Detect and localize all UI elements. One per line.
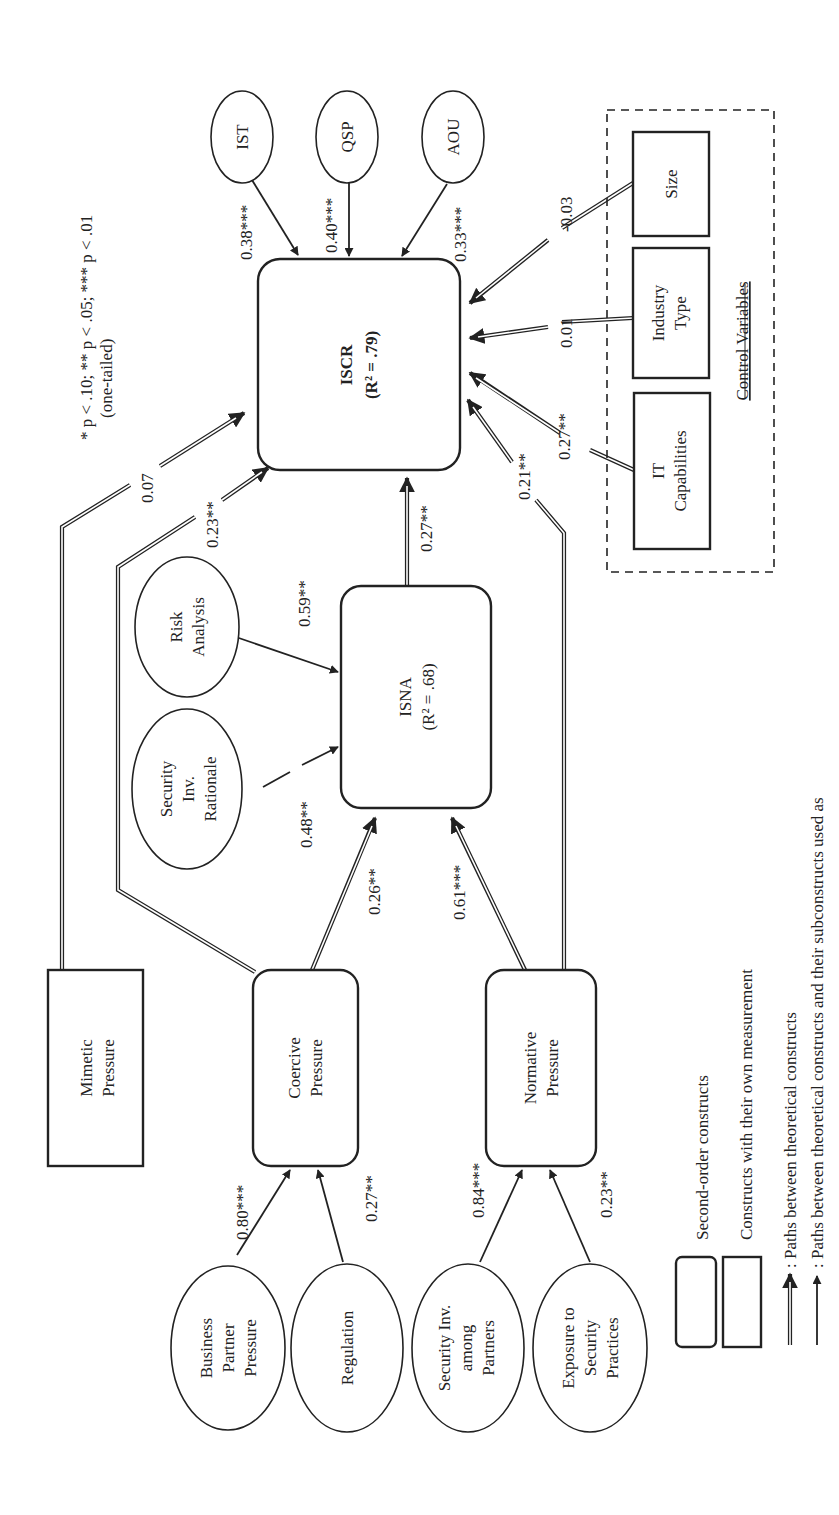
qsp-label: QSP xyxy=(338,121,357,152)
legend-single-arrow-text: : Paths between theoretical constructs a… xyxy=(808,797,827,1268)
coef-bpp-coercive: 0.80*** xyxy=(233,1185,252,1240)
path-industry-iscr: 0.01 xyxy=(470,318,633,348)
rationale-line2: Inv. xyxy=(179,776,198,802)
isna-label: ISNA xyxy=(396,676,415,716)
node-business-partner-pressure: Business Partner Pressure xyxy=(171,1266,285,1430)
path-exposure-normative: 0.23** xyxy=(550,1170,616,1262)
path-rationale-isna: 0.48** xyxy=(263,747,338,848)
mimetic-line2: Pressure xyxy=(99,1039,118,1097)
bpp-line3: Pressure xyxy=(241,1319,260,1377)
coef-isna-iscr: 0.27** xyxy=(417,505,436,552)
research-model-diagram: * p < .10; ** p < .05; *** p < .01 (one-… xyxy=(0,0,839,1515)
coef-normative-iscr: 0.21** xyxy=(515,453,534,500)
ist-label: IST xyxy=(233,124,252,150)
node-sec-inv-rationale: Security Inv. Rationale xyxy=(132,709,242,869)
significance-line-1: * p < .10; ** p < .05; *** p < .01 xyxy=(77,215,96,440)
path-bpp-coercive: 0.80*** xyxy=(233,1170,290,1255)
coef-qsp-iscr: 0.40*** xyxy=(322,198,341,253)
node-qsp: QSP xyxy=(316,91,378,183)
exposure-line3: Practices xyxy=(603,1317,622,1378)
risk-line1: Risk xyxy=(167,611,186,643)
path-coercive-isna: 0.26** xyxy=(312,818,384,970)
path-normative-isna: 0.61*** xyxy=(450,818,525,970)
node-sec-inv-partners: Security Inv. among Partners xyxy=(412,1264,524,1432)
significance-line-2: (one-tailed) xyxy=(97,339,116,418)
coercive-line2: Pressure xyxy=(307,1039,326,1097)
node-normative: Normative Pressure xyxy=(486,970,596,1166)
node-exposure-security-practices: Exposure to Security Practices xyxy=(533,1264,647,1432)
path-isna-iscr: 0.27** xyxy=(407,478,436,586)
legend-double-arrow-text: : Paths between theoretical constructs xyxy=(781,1012,800,1268)
normative-line2: Pressure xyxy=(543,1039,562,1097)
path-regulation-coercive: 0.27** xyxy=(318,1170,381,1262)
path-itcap-iscr: 0.27** xyxy=(470,373,634,470)
legend-square-box-icon xyxy=(723,1257,761,1347)
iscr-r2: (R² = .79) xyxy=(362,331,381,399)
path-risk-isna: 0.59** xyxy=(230,580,338,672)
control-variables-group: Size Industry Type IT Capabilities Contr… xyxy=(607,110,774,572)
legend: Second-order constructs Constructs with … xyxy=(676,797,827,1347)
partners-line2: among xyxy=(457,1324,476,1371)
node-mimetic: Mimetic Pressure xyxy=(48,970,143,1166)
coef-regulation-coercive: 0.27** xyxy=(362,1175,381,1222)
bpp-line1: Business xyxy=(197,1318,216,1378)
node-ist: IST xyxy=(211,91,273,183)
coef-coercive-iscr: 0.23** xyxy=(203,501,222,548)
partners-line1: Security Inv. xyxy=(435,1305,454,1392)
exposure-line1: Exposure to xyxy=(559,1307,578,1389)
node-aou: AOU xyxy=(422,91,484,183)
path-partners-normative: 0.84*** xyxy=(469,1163,522,1262)
coef-coercive-isna: 0.26** xyxy=(365,868,384,915)
path-size-iscr: -0.03 xyxy=(470,183,633,303)
industry-line2: Type xyxy=(671,296,690,330)
node-regulation: Regulation xyxy=(291,1264,403,1432)
node-risk-analysis: Risk Analysis xyxy=(135,557,239,697)
coef-size-iscr: -0.03 xyxy=(557,197,576,232)
isna-r2: (R² = .68) xyxy=(419,663,438,730)
legend-square-box-text: Constructs with their own measurement xyxy=(737,969,756,1240)
node-coercive: Coercive Pressure xyxy=(253,970,358,1166)
node-isna: ISNA (R² = .68) xyxy=(341,586,491,808)
rationale-line1: Security xyxy=(157,760,176,817)
risk-line2: Analysis xyxy=(189,597,208,657)
bpp-line2: Partner xyxy=(219,1323,238,1372)
iscr-label: ISCR xyxy=(337,344,356,385)
size-label: Size xyxy=(662,169,681,198)
itcap-line2: Capabilities xyxy=(671,430,690,511)
coef-itcap-iscr: 0.27** xyxy=(555,413,574,460)
node-iscr: ISCR (R² = .79) xyxy=(258,259,460,470)
coef-industry-iscr: 0.01 xyxy=(557,318,576,348)
exposure-line2: Security xyxy=(581,1319,600,1376)
industry-line1: Industry xyxy=(649,284,668,341)
legend-rounded-box-icon xyxy=(676,1257,716,1347)
coef-ist-iscr: 0.38*** xyxy=(237,205,256,260)
coef-risk-isna: 0.59** xyxy=(295,580,314,627)
coef-aou-iscr: 0.33*** xyxy=(451,207,470,262)
significance-note: * p < .10; ** p < .05; *** p < .01 (one-… xyxy=(77,215,116,440)
coef-exposure-normative: 0.23** xyxy=(597,1171,616,1218)
path-mimetic-iscr: 0.07 xyxy=(62,413,244,970)
path-ist-iscr: 0.38*** xyxy=(237,180,298,260)
legend-rounded-box-text: Second-order constructs xyxy=(693,1075,712,1240)
itcap-line1: IT xyxy=(649,462,668,479)
path-aou-iscr: 0.33*** xyxy=(402,184,470,262)
coef-partners-normative: 0.84*** xyxy=(469,1163,488,1218)
coef-rationale-isna: 0.48** xyxy=(297,801,316,848)
normative-line1: Normative xyxy=(521,1032,540,1105)
coef-normative-isna: 0.61*** xyxy=(450,865,469,920)
rationale-line3: Rationale xyxy=(201,756,220,821)
coercive-line1: Coercive xyxy=(285,1037,304,1098)
aou-label: AOU xyxy=(444,119,463,156)
coef-mimetic-iscr: 0.07 xyxy=(138,473,157,503)
regulation-label: Regulation xyxy=(338,1310,357,1385)
mimetic-line1: Mimetic xyxy=(77,1039,96,1097)
path-qsp-iscr: 0.40*** xyxy=(322,183,349,256)
control-variables-label: Control Variables xyxy=(733,281,752,400)
partners-line3: Partners xyxy=(479,1320,498,1376)
